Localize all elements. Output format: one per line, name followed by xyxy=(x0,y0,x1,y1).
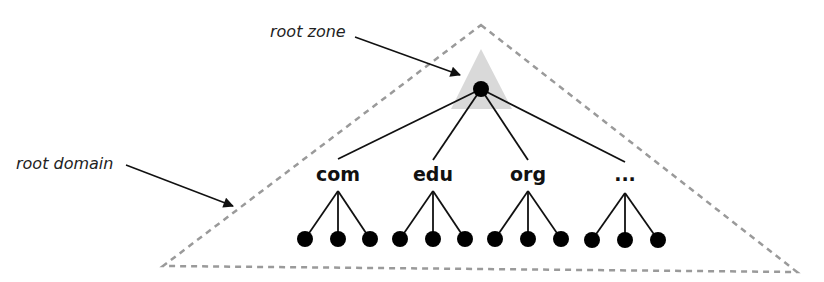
root-zone-arrow xyxy=(355,37,460,75)
subtree-com xyxy=(297,191,378,247)
leaf-node xyxy=(487,231,503,247)
leaf-node xyxy=(362,231,378,247)
root-domain-arrow xyxy=(126,165,233,206)
leaf-node xyxy=(584,232,600,248)
root-zone-annotation: root zone xyxy=(270,22,346,41)
tld-label-edu: edu xyxy=(413,163,453,185)
leaf-node xyxy=(650,232,666,248)
leaf-node xyxy=(425,231,441,247)
leaf-node xyxy=(297,231,313,247)
leaf-node xyxy=(520,231,536,247)
leaf-node xyxy=(553,231,569,247)
dns-root-domain-diagram: com edu org ... root zone root dom xyxy=(0,0,824,282)
leaf-node xyxy=(617,232,633,248)
subtree-org xyxy=(487,191,569,247)
tld-label-org: org xyxy=(510,163,546,185)
root-node xyxy=(473,81,489,97)
tld-label-more: ... xyxy=(614,163,636,185)
tld-label-com: com xyxy=(316,163,360,185)
leaf-node xyxy=(457,231,473,247)
root-domain-annotation: root domain xyxy=(16,154,113,173)
leaf-node xyxy=(392,231,408,247)
subtree-more xyxy=(584,193,666,248)
subtree-edu xyxy=(392,191,473,247)
leaf-node xyxy=(330,231,346,247)
